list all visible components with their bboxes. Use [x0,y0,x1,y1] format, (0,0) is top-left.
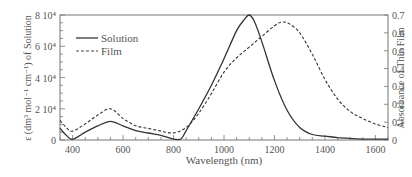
y-tick-label: 4 10⁴ [35,73,57,84]
x-tick-label: 1200 [264,144,284,155]
x-tick-label: 1600 [365,144,385,155]
y2-axis-label: Absorbance of Thin Film [395,27,406,128]
y-tick-label: 8 10⁴ [35,10,57,21]
x-axis-label: Wavelength (nm) [186,154,263,167]
y-tick-label: 2 10⁴ [35,104,57,115]
x-tick-label: 1400 [315,144,335,155]
y-tick-label: 0 [51,135,56,146]
legend-solution-label: Solution [101,32,139,44]
legend-film-label: Film [101,45,122,57]
absorption-spectrum-chart: 4006008001000120014001600 02 10⁴4 10⁴6 1… [0,0,412,177]
x-tick-label: 600 [116,144,131,155]
y-axis-label: ε (dm³ mol⁻¹ cm⁻¹) of Solution [22,15,34,141]
x-tick-label: 800 [166,144,181,155]
legend: Solution Film [76,32,139,57]
y2-tick-label: 0 [392,135,397,146]
x-tick-label: 400 [65,144,80,155]
y-tick-label: 6 10⁴ [35,41,57,52]
y2-tick-label: 0.7 [392,10,405,21]
